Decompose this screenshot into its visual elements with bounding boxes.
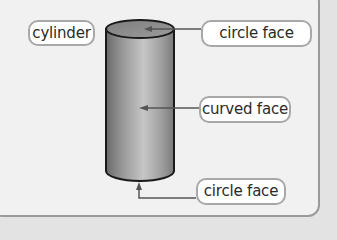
curved-face [106, 29, 174, 181]
label-bottom-circle-face: circle face [196, 178, 286, 205]
label-curved-face: curved face [199, 96, 291, 123]
cylinder-shape [106, 20, 174, 181]
bottom-face-pointer [136, 182, 196, 198]
label-top-circle-face: circle face [201, 20, 312, 47]
label-shape-name: cylinder [28, 20, 95, 46]
arrow-up-icon [136, 182, 142, 190]
